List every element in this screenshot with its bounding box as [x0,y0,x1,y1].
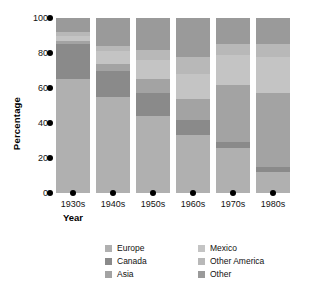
bar-segment-other [136,18,170,50]
bar-segment-canada [176,120,210,136]
bar-segment-other [96,18,130,46]
bar-segment-canada [136,93,170,116]
legend-swatch-icon [105,271,112,278]
y-axis: Percentage 100806040200 [0,0,56,292]
legend-label: Europe [117,244,144,253]
bar-1970s[interactable] [216,18,250,193]
bar-segment-mexico [216,55,250,85]
x-tick-marker [270,190,276,196]
bar-segment-europe [136,116,170,193]
x-tick-marker [230,190,236,196]
bar-segment-canada [56,44,90,79]
legend-item-other-america[interactable]: Other America [198,255,264,267]
bar-segment-canada [96,71,130,97]
x-tick-label: 1980s [250,199,296,209]
bar-segment-asia [96,64,130,71]
legend-item-europe[interactable]: Europe [105,242,147,254]
legend-label: Canada [117,257,147,266]
legend-item-other[interactable]: Other [198,268,264,280]
bar-segment-other [216,18,250,44]
bar-1980s[interactable] [256,18,290,193]
bar-segment-mexico [136,60,170,79]
bar-segment-asia [136,79,170,93]
x-axis-title: Year [50,212,96,223]
legend-label: Asia [117,270,134,279]
bar-segment-asia [216,85,250,143]
bar-segment-other-america [256,44,290,56]
legend-label: Other America [210,257,264,266]
y-tick-marker [47,15,53,21]
plot-area [56,18,304,193]
bar-1940s[interactable] [96,18,130,193]
bar-segment-asia [176,99,210,120]
legend-swatch-icon [198,245,205,252]
y-tick-marker [47,85,53,91]
bar-segment-other [56,18,90,32]
bar-segment-other-america [216,44,250,55]
bar-segment-other [176,18,210,57]
x-tick-marker [70,190,76,196]
legend-swatch-icon [198,271,205,278]
x-tick-marker [190,190,196,196]
legend-swatch-icon [105,245,112,252]
legend-item-canada[interactable]: Canada [105,255,147,267]
legend: EuropeCanadaAsia MexicoOther AmericaOthe… [105,242,310,284]
bar-segment-other [256,18,290,44]
y-tick-marker [47,190,53,196]
legend-item-asia[interactable]: Asia [105,268,147,280]
x-tick-marker [110,190,116,196]
x-tick-marker [150,190,156,196]
legend-label: Mexico [210,244,237,253]
bar-1950s[interactable] [136,18,170,193]
legend-column-right: MexicoOther AmericaOther [198,242,264,281]
bar-segment-mexico [256,57,290,94]
y-tick-marker [47,50,53,56]
bar-segment-europe [96,97,130,193]
y-axis-title: Percentage [11,79,22,169]
legend-column-left: EuropeCanadaAsia [105,242,147,281]
bar-segment-europe [56,79,90,193]
bar-segment-mexico [176,74,210,99]
y-tick-marker [47,155,53,161]
bar-1960s[interactable] [176,18,210,193]
bar-segment-mexico [96,51,130,63]
stacked-bar-chart: Percentage 100806040200 1930sYear1940s19… [0,0,316,292]
bar-segment-other-america [176,57,210,75]
bar-segment-europe [216,148,250,194]
bar-segment-europe [176,135,210,193]
bar-segment-other-america [136,50,170,61]
y-tick-marker [47,120,53,126]
bar-segment-asia [256,93,290,167]
legend-swatch-icon [105,258,112,265]
bar-1930s[interactable] [56,18,90,193]
y-tick-label: 100 [33,13,48,23]
legend-item-mexico[interactable]: Mexico [198,242,264,254]
legend-swatch-icon [198,258,205,265]
legend-label: Other [210,270,231,279]
